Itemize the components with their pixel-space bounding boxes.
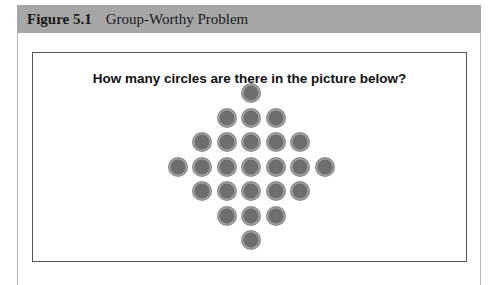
circle	[218, 133, 236, 151]
circle	[242, 109, 260, 127]
circle	[218, 182, 236, 200]
circle	[218, 207, 236, 225]
circle	[291, 158, 309, 176]
circle	[242, 84, 260, 102]
circle	[242, 231, 260, 249]
circle	[267, 158, 285, 176]
figure-header: Figure 5.1 Group-Worthy Problem	[17, 5, 481, 33]
circle	[291, 133, 309, 151]
figure-title: Group-Worthy Problem	[106, 11, 249, 28]
circle	[193, 182, 211, 200]
problem-box: How many circles are there in the pictur…	[32, 52, 467, 262]
circle	[169, 158, 187, 176]
circle	[193, 158, 211, 176]
circle	[218, 109, 236, 127]
circle	[267, 109, 285, 127]
circle	[267, 207, 285, 225]
circle	[193, 133, 211, 151]
circle	[242, 207, 260, 225]
figure-number: Figure 5.1	[27, 11, 92, 28]
circle	[242, 158, 260, 176]
circle	[242, 182, 260, 200]
circle	[267, 182, 285, 200]
circle	[291, 182, 309, 200]
circle	[218, 158, 236, 176]
circle	[242, 133, 260, 151]
circle	[316, 158, 334, 176]
circle	[267, 133, 285, 151]
